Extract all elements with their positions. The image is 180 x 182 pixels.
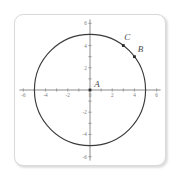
x-axis-tick-label: -4 <box>43 92 48 98</box>
x-axis-tick-label: 4 <box>133 92 136 98</box>
coordinate-plane-panel: -6-4-20246642-2-4-6ABC <box>14 14 166 166</box>
coordinate-plane-svg: -6-4-20246642-2-4-6ABC <box>15 15 165 165</box>
x-axis-tick-label: 0 <box>89 92 92 98</box>
point-marker-c <box>122 44 125 47</box>
y-axis-tick-label: 6 <box>84 20 87 26</box>
y-axis-tick-label: -4 <box>82 131 87 137</box>
y-axis-tick-label: -6 <box>82 154 87 160</box>
x-axis-tick-label: -2 <box>66 92 71 98</box>
point-label-c: C <box>124 32 131 42</box>
point-marker-a <box>89 89 92 92</box>
y-axis-tick-label: 4 <box>84 43 87 49</box>
point-marker-b <box>133 55 136 58</box>
figure-root: -6-4-20246642-2-4-6ABC <box>0 0 180 182</box>
point-label-b: B <box>138 44 144 54</box>
x-axis-tick-label: 2 <box>111 92 114 98</box>
x-axis-tick-label: -6 <box>21 92 26 98</box>
point-label-a: A <box>93 79 100 89</box>
x-axis-tick-label: 6 <box>155 92 158 98</box>
y-axis-tick-label: 2 <box>84 65 87 71</box>
y-axis-tick-label: -2 <box>82 109 87 115</box>
